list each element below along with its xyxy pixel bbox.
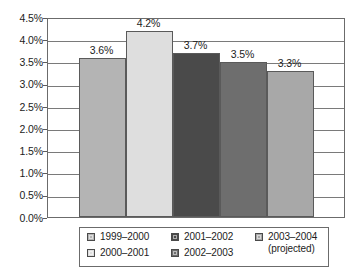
legend-label: 2003–2004 <box>268 231 317 243</box>
legend-label: 2001–2002 <box>184 231 233 243</box>
legend-label: 2000–2001 <box>100 247 149 259</box>
legend: 1999–2000 2000–2001 2001–2002 2002–2003 <box>79 227 329 267</box>
legend-item-2003-2004[interactable]: 2003–2004 (projected) <box>255 231 322 255</box>
legend-label-sub: (projected) <box>268 243 317 255</box>
y-tick-label: 2.5% <box>0 102 43 112</box>
y-tick-label: 4.0% <box>0 35 43 45</box>
value-label-2002-2003: 3.5% <box>219 49 266 60</box>
y-tick-label: 1.0% <box>0 168 43 178</box>
bar-chart: 4.5% 4.0% 3.5% 3.0% 2.5% 2.0% 1.5% 1.0% … <box>0 0 361 273</box>
bar-2001-2002[interactable] <box>173 53 220 217</box>
bar-2002-2003[interactable] <box>220 62 267 217</box>
legend-swatch-icon <box>87 249 95 257</box>
y-tick-label: 3.0% <box>0 79 43 89</box>
y-tick-label: 0.0% <box>0 213 43 223</box>
legend-swatch-icon <box>255 233 263 241</box>
bar-1999-2000[interactable] <box>79 58 126 217</box>
y-tick-label: 0.5% <box>0 190 43 200</box>
legend-label: 2002–2003 <box>184 247 233 259</box>
legend-item-1999-2000[interactable]: 1999–2000 <box>87 231 171 243</box>
y-tick-mark <box>43 218 47 219</box>
legend-item-2002-2003[interactable]: 2002–2003 <box>171 247 255 259</box>
legend-item-2000-2001[interactable]: 2000–2001 <box>87 247 171 259</box>
value-label-1999-2000: 3.6% <box>78 45 125 56</box>
y-tick-label: 3.5% <box>0 57 43 67</box>
legend-swatch-icon <box>171 233 179 241</box>
y-tick-label: 1.5% <box>0 146 43 156</box>
legend-swatch-icon <box>171 249 179 257</box>
value-label-2001-2002: 3.7% <box>172 40 219 51</box>
legend-item-2001-2002[interactable]: 2001–2002 <box>171 231 255 243</box>
y-tick-label: 4.5% <box>0 13 43 23</box>
y-tick-label: 2.0% <box>0 124 43 134</box>
value-label-2003-2004: 3.3% <box>266 58 313 69</box>
legend-label: 1999–2000 <box>100 231 149 243</box>
legend-swatch-icon <box>87 233 95 241</box>
value-label-2000-2001: 4.2% <box>125 18 172 29</box>
bar-2003-2004[interactable] <box>267 71 314 217</box>
bar-2000-2001[interactable] <box>126 31 173 217</box>
